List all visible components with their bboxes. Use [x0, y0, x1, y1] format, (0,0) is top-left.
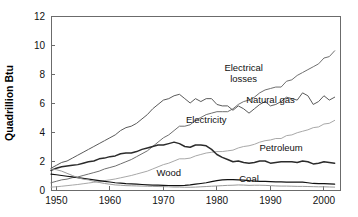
plot-frame [51, 16, 340, 190]
x-tick-label: 1960 [99, 195, 122, 206]
y-tick-label: 12 [34, 11, 46, 22]
y-tick-label: 10 [34, 40, 46, 51]
series-label-natural-gas: Natural gas [246, 94, 295, 105]
x-tick-label: 1970 [152, 195, 175, 206]
y-tick-label: 8 [39, 69, 45, 80]
series-line-electricity [51, 120, 335, 187]
series-line-wood [51, 174, 335, 186]
x-tick-label: 2000 [313, 195, 336, 206]
series-labels: ElectricallossesNatural gasElectricityPe… [156, 62, 302, 184]
x-tick-label: 1980 [206, 195, 229, 206]
y-tick-label: 0 [39, 185, 45, 196]
x-axis-tick-labels: 195019601970198019902000 [45, 195, 335, 206]
y-tick-label: 4 [39, 127, 45, 138]
x-tick-label: 1950 [45, 195, 68, 206]
x-axis-ticks [56, 186, 324, 190]
y-axis-tick-labels: 024681012 [34, 11, 46, 196]
y-tick-label: 6 [39, 98, 45, 109]
y-axis-title: Quadrillion Btu [3, 65, 15, 141]
series-label-petroleum: Petroleum [259, 142, 302, 153]
series-label-coal: Coal [239, 173, 259, 184]
series-label-electricity: Electricity [186, 114, 227, 125]
energy-consumption-chart: 024681012 195019601970198019902000 Quadr… [0, 0, 358, 217]
x-tick-label: 1990 [259, 195, 282, 206]
series-label-wood: Wood [156, 167, 181, 178]
plot-border [51, 16, 340, 190]
series-label-electrical-losses: Electricallosses [224, 62, 263, 84]
y-axis-ticks [51, 16, 55, 190]
y-tick-label: 2 [39, 156, 45, 167]
chart-svg: 024681012 195019601970198019902000 Quadr… [0, 0, 358, 217]
